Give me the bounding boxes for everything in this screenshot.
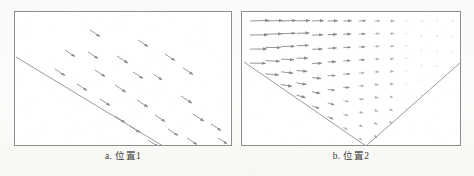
vector-arrow <box>88 52 98 59</box>
vector-arrow <box>77 84 87 91</box>
vector-arrow <box>281 72 293 73</box>
vector-arrow <box>281 59 294 60</box>
vector-arrow <box>343 127 347 129</box>
vector-arrow <box>359 112 364 113</box>
vector-arrow <box>211 124 221 131</box>
arrow-glyph-group-1 <box>55 30 227 146</box>
vector-field-plot-2 <box>242 12 461 146</box>
vector-arrow <box>218 138 227 144</box>
vector-arrow <box>148 140 158 146</box>
vector-arrow <box>436 66 437 67</box>
vector-arrow <box>181 96 192 103</box>
caption-panel-2: b. 位置2 <box>241 150 461 162</box>
vector-arrow <box>155 115 165 122</box>
vector-arrow <box>390 109 393 111</box>
vector-arrow <box>55 69 65 76</box>
vector-arrow <box>328 89 335 90</box>
vector-arrow <box>183 68 193 75</box>
vector-arrow <box>130 126 140 133</box>
vector-arrow <box>328 117 334 120</box>
vector-field-plot-1 <box>15 12 232 146</box>
vector-arrow <box>95 70 105 77</box>
vector-arrow <box>281 85 292 87</box>
vector-arrow <box>359 125 363 127</box>
vector-arrow <box>312 92 320 94</box>
vector-arrow <box>312 106 319 109</box>
vector-arrow <box>165 54 175 61</box>
panel-position-1 <box>14 11 232 146</box>
vector-arrow <box>193 114 204 121</box>
vector-arrow <box>328 103 334 105</box>
vector-arrow <box>421 94 422 95</box>
vector-arrow <box>168 129 178 136</box>
vector-arrow <box>421 80 422 81</box>
caption-panel-1: a. 位置1 <box>14 150 232 162</box>
vector-arrow <box>115 85 126 92</box>
vector-arrow <box>374 110 378 111</box>
vector-arrow <box>115 116 125 123</box>
vector-arrow <box>266 61 280 62</box>
vector-arrow <box>405 83 406 84</box>
vector-arrow <box>65 50 75 57</box>
vector-arrow <box>312 78 321 79</box>
v-boundary-right <box>366 62 461 146</box>
vector-arrow <box>281 33 295 34</box>
vector-arrow <box>452 52 453 53</box>
vector-arrow <box>343 114 348 116</box>
vector-arrow <box>153 74 162 80</box>
vector-arrow <box>359 138 362 140</box>
diagonal-boundary <box>16 57 163 146</box>
vector-arrow <box>374 123 377 125</box>
vector-arrow <box>266 74 279 75</box>
vector-arrow <box>452 67 453 68</box>
vector-arrow <box>137 100 148 107</box>
vector-arrow <box>117 56 128 63</box>
vector-arrow <box>100 99 110 106</box>
vector-arrow <box>436 81 437 82</box>
vector-arrow <box>138 40 148 47</box>
vector-arrow <box>297 70 308 71</box>
vector-arrow <box>405 108 406 109</box>
figure-page: a. 位置1 b. 位置2 <box>0 0 474 176</box>
vector-arrow <box>390 97 393 98</box>
vector-arrow <box>266 20 283 21</box>
boundary-lines-1 <box>16 57 163 146</box>
vector-arrow <box>281 20 296 21</box>
arrow-glyph-group-2 <box>250 20 453 140</box>
vector-arrow <box>133 72 143 79</box>
vector-arrow <box>343 101 349 102</box>
v-boundary-left <box>244 62 366 146</box>
vector-arrow <box>297 95 306 97</box>
panel-position-2 <box>241 11 461 146</box>
vector-arrow <box>90 30 100 37</box>
vector-arrow <box>187 138 197 145</box>
vector-arrow <box>297 83 307 85</box>
vector-arrow <box>405 96 406 97</box>
